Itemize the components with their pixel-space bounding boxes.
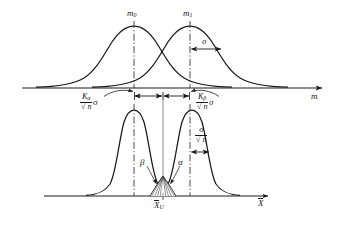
label-m0: m0 [127, 9, 137, 18]
fraction-k-beta: Kβ √ n [196, 93, 208, 111]
fraction-sigma-sqrt-n: σ √ n [195, 126, 207, 144]
label-beta: β [140, 158, 144, 167]
label-sigma-over-sqrt-n: σ √ n [195, 126, 207, 144]
curve-sampling-m0 [86, 110, 163, 196]
label-axis-x-bar: X [258, 199, 264, 208]
statistics-figure: m0 m1 σ m Kα √ n σ Kβ √ n σ σ √ n β α XU… [0, 0, 337, 235]
label-sigma-top: σ [202, 37, 206, 46]
leader-alpha [171, 166, 181, 184]
fraction-k-alpha: Kα √ n [80, 93, 92, 111]
label-m1: m1 [183, 9, 193, 18]
label-k-alpha-over-sqrt-n: Kα √ n σ [80, 93, 97, 111]
label-threshold-x-bar-u: XU [154, 201, 164, 210]
leader-curve-left [104, 90, 133, 96]
label-alpha: α [178, 158, 183, 167]
top-plot-group [22, 21, 322, 88]
figure-canvas [0, 0, 337, 235]
bottom-plot-group [44, 92, 268, 200]
label-axis-m: m [311, 92, 318, 101]
label-k-beta-over-sqrt-n: Kβ √ n σ [196, 93, 213, 111]
curve-sampling-m1 [163, 110, 240, 196]
